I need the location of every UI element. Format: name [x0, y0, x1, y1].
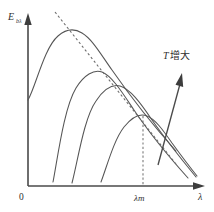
t-arrow-head [176, 73, 184, 87]
t-symbol: T [163, 50, 170, 61]
y-axis-subscript: bλ [16, 18, 22, 24]
lambda-m-label: λm [133, 193, 145, 203]
temperature-increase-arrow [158, 73, 183, 165]
blackbody-spectrum-figure: E bλ λ 0 λm T 增大 [0, 0, 214, 212]
chart-canvas: E bλ λ 0 λm T 增大 [0, 0, 214, 212]
y-axis-arrowhead [24, 13, 31, 25]
spectral-curve-t4 [28, 30, 176, 151]
origin-label: 0 [19, 192, 24, 202]
y-axis-symbol: E [7, 11, 14, 22]
y-axis-label: E bλ [7, 11, 22, 24]
x-axis [28, 182, 205, 189]
x-axis-arrowhead [193, 182, 205, 189]
t-increase-text: 增大 [170, 49, 190, 61]
t-increase-label: T 增大 [163, 49, 190, 61]
x-axis-label: λ [197, 191, 203, 202]
